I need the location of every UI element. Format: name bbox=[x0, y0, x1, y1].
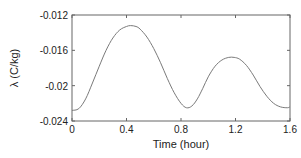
y-tick-label: -0.012 bbox=[40, 10, 69, 21]
x-tick-label: 0.4 bbox=[120, 124, 134, 135]
y-tick-label: -0.02 bbox=[45, 81, 68, 92]
y-tick-label: -0.024 bbox=[40, 116, 69, 127]
line-chart: 00.40.81.21.6 -0.012-0.016-0.02-0.024 Ti… bbox=[0, 0, 301, 158]
data-line bbox=[72, 26, 290, 111]
x-tick-label: 0.8 bbox=[174, 124, 188, 135]
x-tick-label: 1.2 bbox=[229, 124, 243, 135]
x-tick-label: 1.6 bbox=[283, 124, 297, 135]
x-axis-ticks: 00.40.81.21.6 bbox=[69, 15, 297, 135]
x-axis-label: Time (hour) bbox=[153, 138, 209, 150]
y-axis-label: λ (C/kg) bbox=[8, 49, 20, 88]
plot-frame bbox=[72, 15, 290, 121]
y-tick-label: -0.016 bbox=[40, 45, 69, 56]
x-tick-label: 0 bbox=[69, 124, 75, 135]
